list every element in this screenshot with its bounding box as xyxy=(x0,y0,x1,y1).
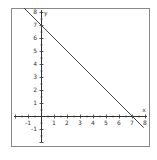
x-tick-label: 6 xyxy=(117,119,121,126)
line-graph: -112345678-112345678yx xyxy=(0,0,157,160)
x-tick-label: 1 xyxy=(52,119,56,126)
y-tick-label: 5 xyxy=(33,47,37,54)
y-tick-label: 8 xyxy=(33,8,37,15)
x-axis-label: x xyxy=(142,106,146,113)
x-tick-label: 4 xyxy=(91,119,95,126)
y-tick-label: 4 xyxy=(33,60,37,67)
x-tick-label: 3 xyxy=(78,119,82,126)
x-tick-label: 7 xyxy=(130,119,134,126)
y-tick-label: 2 xyxy=(33,86,37,93)
x-tick-label: 8 xyxy=(143,119,147,126)
y-tick-label: 1 xyxy=(33,99,37,106)
y-axis-label: y xyxy=(44,9,48,17)
y-tick-label: 7 xyxy=(33,21,37,28)
y-tick-label: -1 xyxy=(31,125,37,132)
x-tick-label: 2 xyxy=(65,119,69,126)
y-tick-label: 3 xyxy=(33,73,37,80)
x-tick-label: 5 xyxy=(104,119,108,126)
y-tick-label: 6 xyxy=(33,34,37,41)
